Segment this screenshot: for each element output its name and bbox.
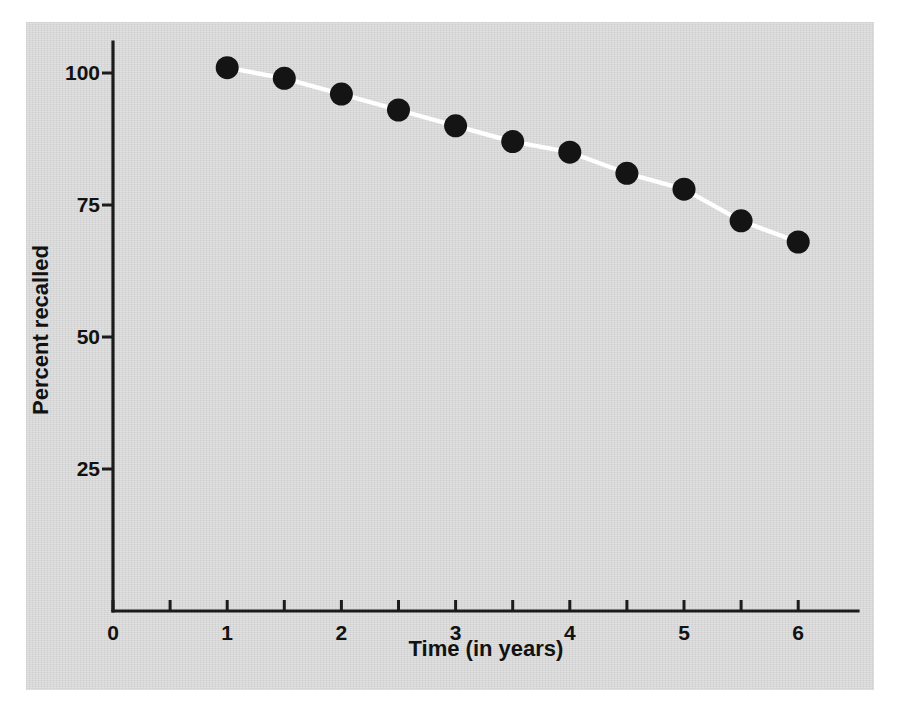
data-point — [615, 162, 638, 185]
x-tick-label-4: 4 — [564, 621, 576, 645]
figure: 0123456 255075100 Time (in years) Percen… — [0, 0, 916, 704]
data-line — [227, 68, 798, 242]
data-point — [330, 83, 353, 106]
data-point — [273, 67, 296, 90]
y-tick-label-25: 25 — [38, 457, 100, 481]
data-line-group — [227, 68, 798, 242]
data-point — [444, 114, 467, 137]
y-axis-title: Percent recalled — [28, 245, 54, 415]
x-tick-label-6: 6 — [792, 621, 804, 645]
x-axis-title: Time (in years) — [409, 636, 564, 662]
data-point — [673, 178, 696, 201]
y-tick-label-100: 100 — [38, 61, 100, 85]
ticks-group — [102, 73, 798, 611]
x-tick-label-1: 1 — [221, 621, 233, 645]
x-tick-label-0: 0 — [107, 621, 119, 645]
data-point — [787, 231, 810, 254]
data-point — [387, 99, 410, 122]
data-point — [558, 141, 581, 164]
x-tick-label-2: 2 — [336, 621, 348, 645]
plot-area — [0, 0, 916, 704]
data-point — [730, 209, 753, 232]
data-point — [501, 130, 524, 153]
data-point — [216, 56, 239, 79]
axes-group — [113, 42, 858, 611]
y-tick-label-75: 75 — [38, 193, 100, 217]
x-tick-label-5: 5 — [678, 621, 690, 645]
